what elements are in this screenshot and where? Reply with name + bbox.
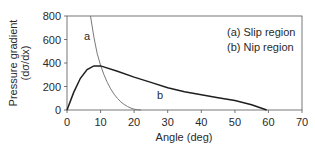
y-axis: 800 600 400 200 0: [43, 10, 67, 116]
series-a-annotation: a: [84, 30, 91, 42]
legend-entry-a: (a) Slip region: [227, 26, 295, 38]
y-tick-label: 200: [43, 81, 61, 93]
x-tick-label: 0: [64, 116, 70, 128]
y-axis-label: Pressure gradient: [7, 20, 19, 107]
pressure-gradient-chart: 800 600 400 200 0 0 10 20 30 40 50 60 70…: [0, 0, 315, 152]
x-axis: 0 10 20 30 40 50 60 70: [64, 110, 308, 128]
y-tick-label: 800: [43, 10, 61, 22]
series-a-line: [91, 16, 141, 110]
y-axis-label-sub: (dσ/dx): [19, 46, 31, 81]
x-tick-label: 50: [229, 116, 241, 128]
y-tick-label: 400: [43, 57, 61, 69]
y-axis-label-group: Pressure gradient (dσ/dx): [7, 20, 31, 107]
x-tick-label: 60: [262, 116, 274, 128]
legend-entry-b: (b) Nip region: [227, 41, 294, 53]
x-axis-label: Angle (deg): [156, 131, 213, 143]
legend: (a) Slip region (b) Nip region: [227, 26, 295, 53]
series-b-line: [67, 66, 267, 110]
series-b-annotation: b: [157, 89, 163, 101]
x-tick-label: 10: [94, 116, 106, 128]
y-tick-label: 0: [55, 104, 61, 116]
x-tick-label: 20: [128, 116, 140, 128]
x-tick-label: 40: [195, 116, 207, 128]
x-tick-label: 70: [296, 116, 308, 128]
y-tick-label: 600: [43, 34, 61, 46]
x-tick-label: 30: [162, 116, 174, 128]
